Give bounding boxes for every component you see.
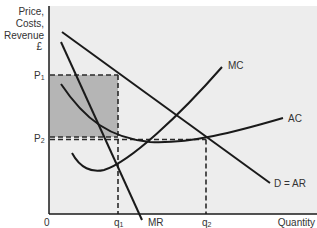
q2-label: q2	[202, 217, 212, 228]
x-axis-label: Quantity	[278, 217, 315, 228]
y-axis-label-line1: Price,	[18, 6, 44, 17]
y-axis-label-line4: £	[36, 41, 42, 52]
y-axis-label-line3: Revenue	[4, 30, 44, 41]
economics-chart: Price, Costs, Revenue £ P1 P2 0 q1 q2 Qu…	[0, 0, 317, 228]
origin-label: 0	[44, 217, 50, 228]
profit-area	[50, 75, 118, 137]
p2-label: P2	[34, 133, 45, 144]
p1-label: P1	[34, 70, 45, 81]
ac-label: AC	[288, 113, 302, 124]
mr-label: MR	[148, 217, 164, 228]
y-axis-label-line2: Costs,	[16, 18, 44, 29]
mc-label: MC	[228, 60, 244, 71]
q1-label: q1	[114, 217, 124, 228]
dar-label: D = AR	[274, 178, 306, 189]
